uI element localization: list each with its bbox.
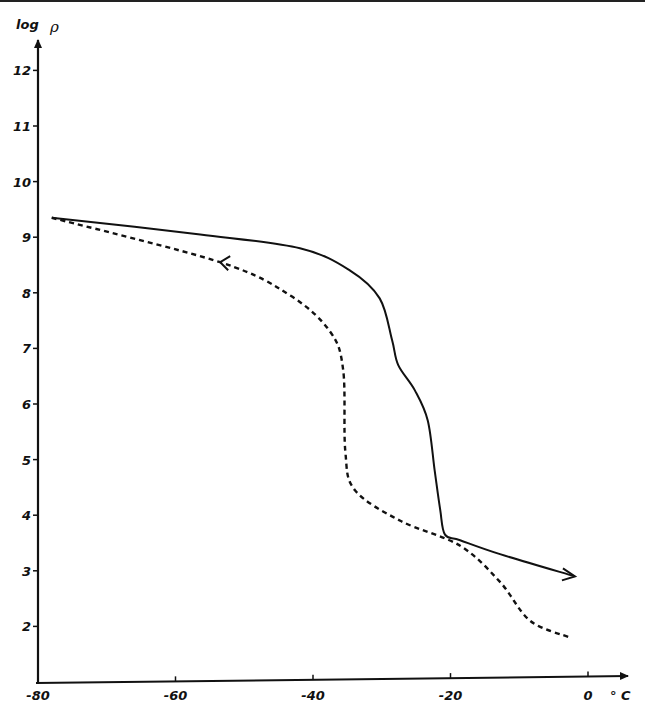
y-axis-title-symbol: ρ	[49, 18, 59, 36]
cooling-curve	[52, 218, 570, 638]
x-tick-label: -20	[439, 688, 463, 703]
y-tick-label: 8	[22, 286, 31, 301]
data-series	[52, 218, 575, 638]
x-axis	[36, 676, 628, 683]
y-ticks: 23456789101112	[13, 63, 38, 634]
x-ticks: -80-60-40-200	[26, 671, 592, 703]
x-tick-label: 0	[583, 688, 592, 703]
x-tick-label: -80	[26, 688, 50, 703]
y-tick-label: 11	[13, 119, 31, 134]
y-tick-label: 9	[22, 230, 31, 245]
y-tick-label: 7	[22, 341, 32, 356]
x-tick-label: -60	[164, 688, 188, 703]
y-tick-label: 12	[13, 63, 31, 78]
heating-curve	[52, 218, 575, 577]
y-axis-title-prefix: log	[16, 17, 39, 32]
y-tick-label: 6	[22, 397, 31, 412]
y-tick-label: 3	[22, 564, 31, 579]
y-tick-label: 2	[22, 619, 31, 634]
y-tick-label: 10	[13, 175, 31, 190]
axes	[36, 40, 628, 684]
cooling-direction-arrow-icon	[220, 256, 230, 270]
x-axis-unit-label: ° C	[610, 688, 631, 703]
x-tick-label: -40	[301, 688, 325, 703]
y-tick-label: 5	[22, 453, 31, 468]
resistivity-temperature-chart: 23456789101112 -80-60-40-200 log ρ ° C	[0, 0, 645, 713]
y-tick-label: 4	[21, 508, 31, 523]
